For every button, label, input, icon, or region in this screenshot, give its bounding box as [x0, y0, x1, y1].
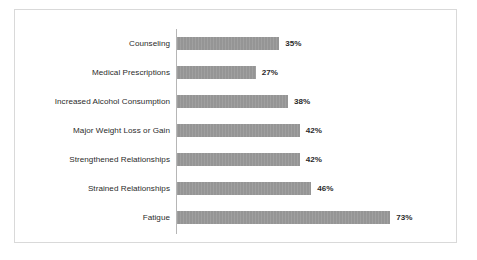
category-label: Strained Relationships	[15, 174, 170, 203]
category-label: Counseling	[15, 29, 170, 58]
bar[interactable]	[177, 153, 300, 166]
chart-frame: Counseling35%Medical Prescriptions27%Inc…	[14, 9, 457, 243]
bar[interactable]	[177, 124, 300, 137]
bar-value-label: 27%	[262, 66, 278, 79]
bar[interactable]	[177, 95, 288, 108]
bar-value-label: 42%	[306, 124, 322, 137]
category-label: Fatigue	[15, 203, 170, 232]
bar[interactable]	[177, 37, 279, 50]
bar-row: Strengthened Relationships42%	[15, 145, 456, 174]
bar-row: Medical Prescriptions27%	[15, 58, 456, 87]
category-label: Medical Prescriptions	[15, 58, 170, 87]
bar-value-label: 42%	[306, 153, 322, 166]
bar-value-label: 35%	[285, 37, 301, 50]
bar-value-label: 46%	[317, 182, 333, 195]
bar-row: Counseling35%	[15, 29, 456, 58]
plot-area: Counseling35%Medical Prescriptions27%Inc…	[15, 10, 456, 242]
bar[interactable]	[177, 66, 256, 79]
category-label: Increased Alcohol Consumption	[15, 87, 170, 116]
category-label: Major Weight Loss or Gain	[15, 116, 170, 145]
bar-value-label: 38%	[294, 95, 310, 108]
bar-row: Fatigue73%	[15, 203, 456, 232]
bar[interactable]	[177, 211, 390, 224]
bar-row: Major Weight Loss or Gain42%	[15, 116, 456, 145]
category-label: Strengthened Relationships	[15, 145, 170, 174]
bar-value-label: 73%	[396, 211, 412, 224]
bar-row: Increased Alcohol Consumption38%	[15, 87, 456, 116]
bar[interactable]	[177, 182, 311, 195]
bar-row: Strained Relationships46%	[15, 174, 456, 203]
